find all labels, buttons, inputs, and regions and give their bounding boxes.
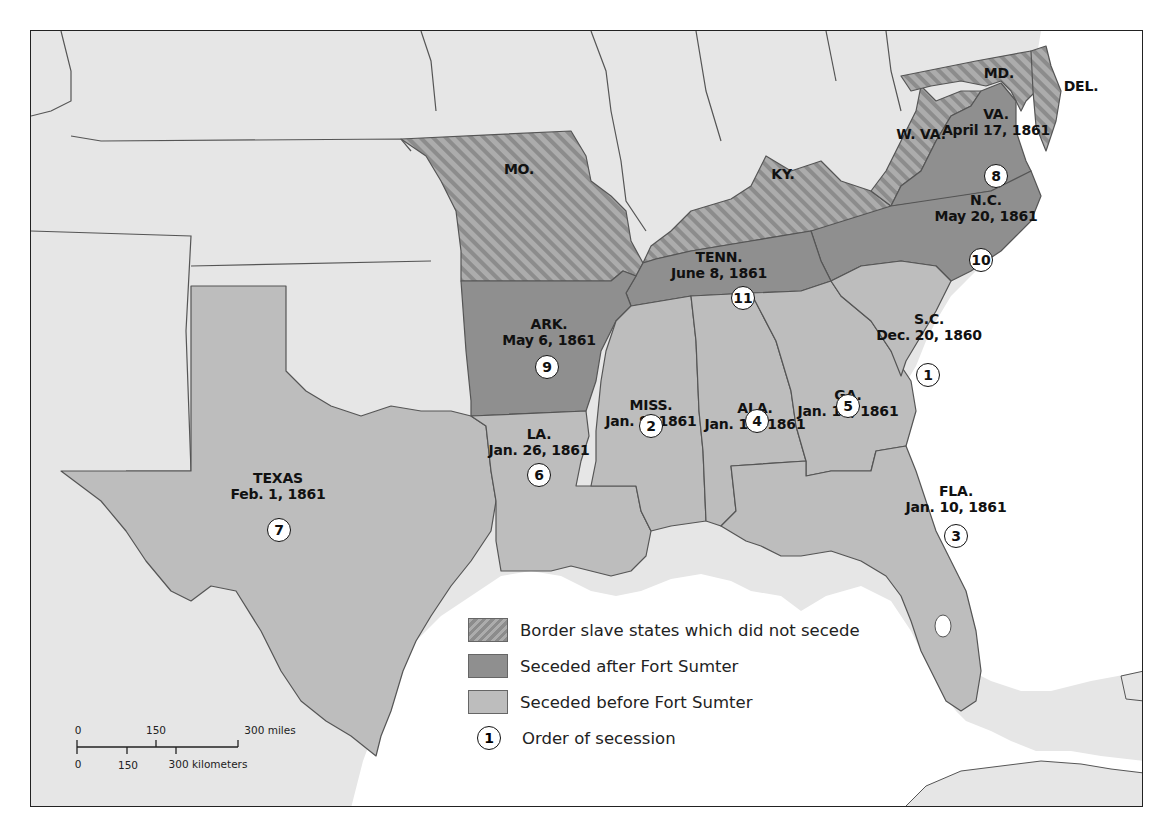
label-louisiana: LA. Jan. 26, 1861	[489, 426, 590, 458]
label-florida: FLA. Jan. 10, 1861	[906, 483, 1007, 515]
secession-date: June 8, 1861	[671, 265, 767, 281]
state-abbr: S.C.	[876, 311, 982, 327]
order-badge-tennessee: 11	[731, 286, 755, 310]
label-texas: TEXAS Feb. 1, 1861	[230, 470, 325, 502]
legend-label: Seceded after Fort Sumter	[520, 657, 738, 676]
order-circle-icon: 1	[477, 726, 501, 750]
secession-date: Jan. 26, 1861	[489, 442, 590, 458]
state-abbr: N.C.	[934, 192, 1037, 208]
secession-date: May 20, 1861	[934, 208, 1037, 224]
order-badge-alabama: 4	[745, 409, 769, 433]
secession-date: April 17, 1861	[942, 122, 1050, 138]
label-tennessee: TENN. June 8, 1861	[671, 249, 767, 281]
scale-km-300: 300 kilometers	[169, 758, 248, 770]
secession-date: Feb. 1, 1861	[230, 486, 325, 502]
label-delaware: DEL.	[1064, 78, 1099, 94]
state-abbr: TENN.	[671, 249, 767, 265]
secession-date: Dec. 20, 1860	[876, 327, 982, 343]
state-abbr: TEXAS	[230, 470, 325, 486]
order-badge-louisiana: 6	[527, 463, 551, 487]
hatched-swatch	[468, 618, 508, 642]
scale-miles-300: 300 miles	[244, 724, 295, 736]
legend-label: Order of secession	[522, 729, 676, 748]
light-swatch	[468, 690, 508, 714]
label-west-virginia: W. VA.	[896, 126, 946, 142]
label-south-carolina: S.C. Dec. 20, 1860	[876, 311, 982, 343]
secession-date: Jan. 10, 1861	[906, 499, 1007, 515]
scale-miles-0: 0	[75, 724, 82, 736]
label-missouri: MO.	[504, 161, 534, 177]
state-abbr: MISS.	[605, 397, 696, 413]
order-badge-texas: 7	[267, 518, 291, 542]
order-badge-arkansas: 9	[535, 355, 559, 379]
lake-okeechobee	[935, 615, 951, 637]
label-virginia: VA. April 17, 1861	[942, 106, 1050, 138]
label-north-carolina: N.C. May 20, 1861	[934, 192, 1037, 224]
state-abbr: FLA.	[906, 483, 1007, 499]
scale-line	[48, 738, 318, 758]
legend-item-border-states: Border slave states which did not secede	[468, 612, 860, 648]
scale-km-0: 0	[75, 758, 82, 770]
label-maryland: MD.	[984, 65, 1014, 81]
state-abbr: VA.	[942, 106, 1050, 122]
legend-item-order: 1 Order of secession	[468, 720, 860, 756]
order-badge-georgia: 5	[836, 394, 860, 418]
state-abbr: LA.	[489, 426, 590, 442]
order-badge-mississippi: 2	[639, 414, 663, 438]
scale-bar: 0 150 300 miles 0 150 300 kilometers	[48, 724, 318, 784]
order-badge-south-carolina: 1	[916, 363, 940, 387]
legend-label: Seceded before Fort Sumter	[520, 693, 752, 712]
label-kentucky: KY.	[771, 166, 794, 182]
dark-swatch	[468, 654, 508, 678]
order-badge-north-carolina: 10	[969, 248, 993, 272]
order-badge-florida: 3	[944, 524, 968, 548]
secession-date: May 6, 1861	[502, 332, 596, 348]
order-badge-virginia: 8	[984, 164, 1008, 188]
state-abbr: ARK.	[502, 316, 596, 332]
legend-label: Border slave states which did not secede	[520, 621, 860, 640]
legend: Border slave states which did not secede…	[468, 612, 860, 756]
legend-item-seceded-after: Seceded after Fort Sumter	[468, 648, 860, 684]
label-arkansas: ARK. May 6, 1861	[502, 316, 596, 348]
scale-km-150: 150	[118, 759, 138, 771]
scale-miles-150: 150	[146, 724, 166, 736]
legend-item-seceded-before: Seceded before Fort Sumter	[468, 684, 860, 720]
